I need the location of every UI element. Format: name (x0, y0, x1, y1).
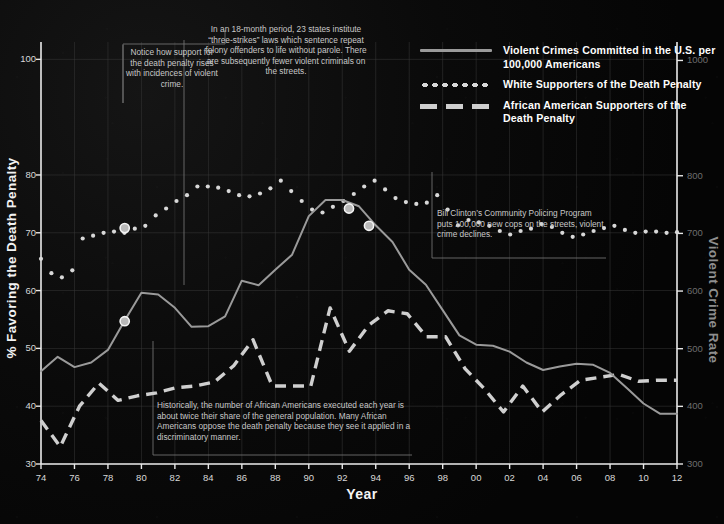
y-tick-label-left: 50 (14, 342, 36, 353)
legend-swatch-dashed-line-icon (420, 104, 492, 109)
y-tick-label-left: 100 (14, 53, 36, 64)
legend-label-violent-crimes: Violent Crimes Committed in the U.S. per… (503, 44, 718, 71)
legend-item-white-supporters: White Supporters of the Death Penalty (420, 78, 724, 92)
y-tick-label-left: 80 (14, 169, 36, 180)
x-tick-label: 88 (266, 472, 284, 483)
legend-swatch-dotted-line-icon (420, 83, 492, 87)
x-tick-label: 10 (635, 472, 653, 483)
x-tick-label: 76 (65, 472, 83, 483)
data-point-marker-crime-1993[interactable] (364, 221, 373, 230)
y-tick-label-left: 40 (14, 400, 36, 411)
x-tick-label: 80 (132, 472, 150, 483)
legend-label-african-american-supporters: African American Supporters of the Death… (503, 99, 718, 126)
x-tick-label: 86 (233, 472, 251, 483)
x-tick-label: 96 (400, 472, 418, 483)
y-tick-label-right: 800 (687, 170, 703, 181)
chart-canvas: % Favoring the Death Penalty Violent Cri… (0, 0, 724, 524)
y-tick-label-right: 300 (687, 458, 703, 469)
annotation-disparity: Historically, the number of African Amer… (157, 400, 412, 442)
x-tick-label: 82 (166, 472, 184, 483)
y-tick-label-right: 400 (687, 400, 703, 411)
chart-legend: Violent Crimes Committed in the U.S. per… (420, 44, 724, 133)
x-tick-label: 90 (300, 472, 318, 483)
x-tick-label: 02 (501, 472, 519, 483)
x-tick-label: 00 (467, 472, 485, 483)
x-tick-label: 08 (601, 472, 619, 483)
x-tick-label: 74 (32, 472, 50, 483)
y-tick-label-right: 600 (687, 285, 703, 296)
y-axis-left-title: % Favoring the Death Penalty (0, 0, 24, 524)
y-tick-label-right: 700 (687, 227, 703, 238)
y-tick-label-right: 500 (687, 343, 703, 354)
y-tick-label-left: 30 (14, 458, 36, 469)
x-tick-label: 92 (333, 472, 351, 483)
x-tick-label: 94 (367, 472, 385, 483)
y-tick-label-left: 60 (14, 285, 36, 296)
x-axis-title: Year (0, 486, 724, 502)
data-point-marker-white-1979[interactable] (120, 224, 129, 233)
annotation-three-strikes: In an 18-month period, 23 states institu… (205, 24, 367, 77)
legend-item-african-american-supporters: African American Supporters of the Death… (420, 99, 724, 126)
annotation-community-policing: Bill Clinton’s Community Policing Progra… (437, 208, 605, 240)
x-tick-label: 98 (434, 472, 452, 483)
x-tick-label: 84 (199, 472, 217, 483)
data-point-marker-crime-1979[interactable] (120, 317, 129, 326)
data-point-marker-crime-1992[interactable] (344, 204, 353, 213)
legend-label-white-supporters: White Supporters of the Death Penalty (503, 78, 724, 92)
y-tick-label-left: 70 (14, 227, 36, 238)
legend-swatch-solid-line-icon (420, 49, 492, 52)
x-tick-label: 06 (568, 472, 586, 483)
x-tick-label: 12 (668, 472, 686, 483)
x-tick-label: 78 (99, 472, 117, 483)
legend-item-violent-crimes: Violent Crimes Committed in the U.S. per… (420, 44, 724, 71)
x-tick-label: 04 (534, 472, 552, 483)
